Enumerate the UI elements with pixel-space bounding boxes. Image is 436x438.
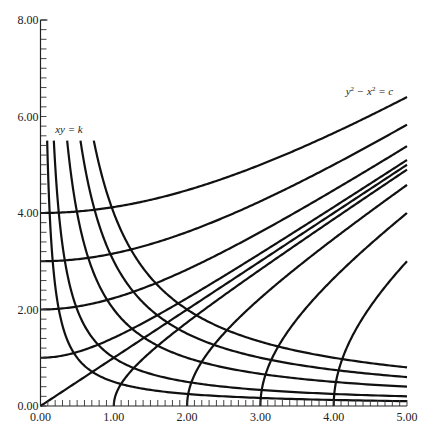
x-tick-label: 1.00 — [103, 410, 124, 424]
y-tick-label: 8.00 — [18, 13, 39, 27]
y-tick-label: 0.00 — [18, 399, 39, 413]
annotation-y2-x2-c: y2 − x2 = c — [345, 85, 394, 97]
annotation-xy-k: xy = k — [54, 123, 84, 135]
y-tick-label: 4.00 — [18, 206, 39, 220]
x-tick-label: 3.00 — [250, 410, 271, 424]
x-tick-label: 5.00 — [397, 410, 418, 424]
x-tick-label: 4.00 — [323, 410, 344, 424]
hyperbola-y2-x2-c — [41, 165, 408, 406]
x-tick-label: 2.00 — [177, 410, 198, 424]
hyperbola-y2-x2-c — [114, 170, 407, 406]
y-tick-label: 6.00 — [18, 110, 39, 124]
hyperbola-chart: 0.001.002.003.004.005.000.002.004.006.00… — [0, 0, 436, 438]
y-tick-label: 2.00 — [18, 303, 39, 317]
